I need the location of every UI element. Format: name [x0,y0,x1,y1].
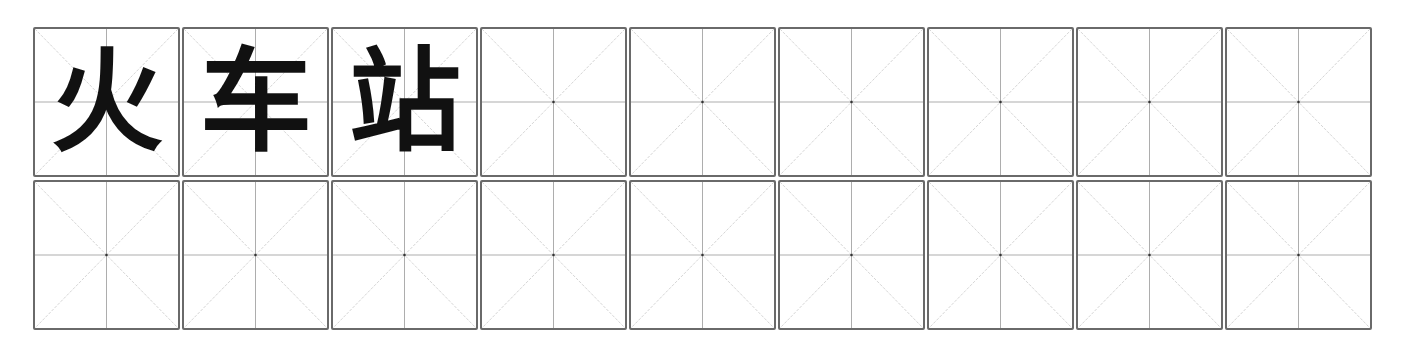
practice-character [1078,182,1221,328]
grid-cell[interactable] [629,180,776,330]
practice-character [929,182,1072,328]
practice-character [333,182,476,328]
grid-cell[interactable] [1225,27,1372,177]
grid-cell[interactable] [33,180,180,330]
grid-row-1: 火 车 站 [33,27,1391,177]
grid-cell[interactable] [778,180,925,330]
practice-character: 站 [333,29,476,175]
grid-cell[interactable] [480,180,627,330]
grid-cell[interactable] [331,180,478,330]
grid-cell[interactable]: 车 [182,27,329,177]
grid-cell[interactable] [1225,180,1372,330]
practice-character [929,29,1072,175]
practice-character [35,182,178,328]
grid-cell[interactable] [182,180,329,330]
grid-cell[interactable] [629,27,776,177]
practice-character [482,29,625,175]
practice-grid: 火 车 站 [33,27,1391,333]
grid-cell[interactable]: 站 [331,27,478,177]
practice-character [1078,29,1221,175]
practice-character: 车 [184,29,327,175]
practice-character [482,182,625,328]
practice-character [1227,29,1370,175]
practice-character [780,182,923,328]
grid-cell[interactable]: 火 [33,27,180,177]
practice-character [1227,182,1370,328]
practice-character: 火 [35,29,178,175]
practice-character [631,182,774,328]
grid-cell[interactable] [1076,180,1223,330]
grid-cell[interactable] [1076,27,1223,177]
practice-character [184,182,327,328]
grid-cell[interactable] [927,180,1074,330]
practice-character [780,29,923,175]
grid-cell[interactable] [927,27,1074,177]
grid-cell[interactable] [480,27,627,177]
grid-row-2 [33,180,1391,330]
grid-cell[interactable] [778,27,925,177]
practice-character [631,29,774,175]
